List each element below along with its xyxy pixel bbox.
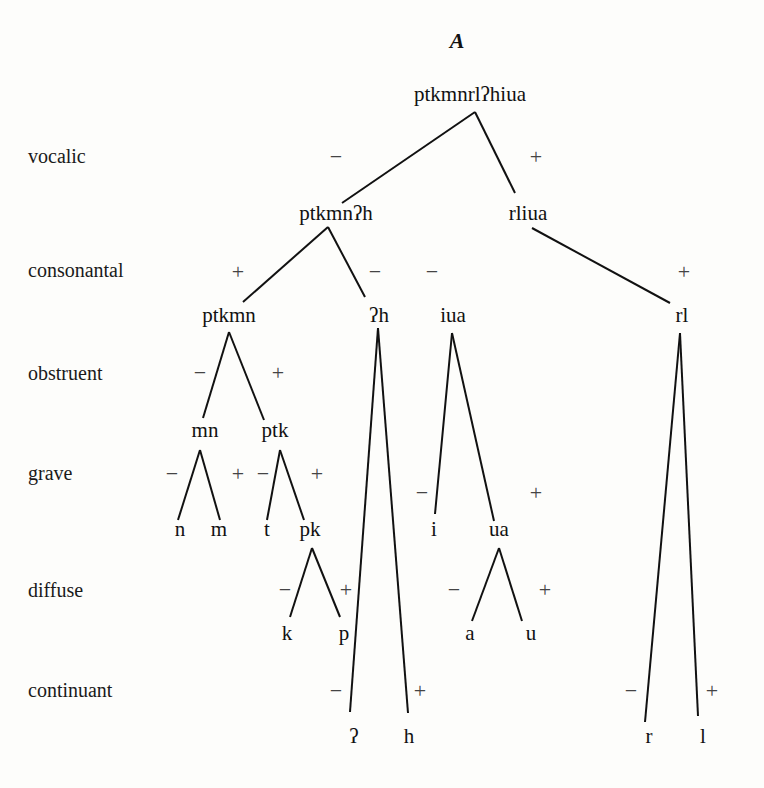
tree-node: r xyxy=(646,724,653,748)
feature-labels: vocalicconsonantalobstruentgravediffusec… xyxy=(28,145,124,701)
tree-edge xyxy=(472,548,499,621)
tree-edge xyxy=(200,450,220,520)
plus-sign: + xyxy=(539,577,551,602)
plus-sign: + xyxy=(340,577,352,602)
tree-edge xyxy=(312,548,340,617)
tree-edge xyxy=(328,227,365,297)
tree-node: ʔh xyxy=(369,303,389,327)
plus-sign: + xyxy=(530,144,542,169)
tree-node: ua xyxy=(489,517,510,541)
feature-label: consonantal xyxy=(28,259,124,281)
minus-sign: − xyxy=(416,480,428,505)
tree-node: mn xyxy=(192,418,219,442)
minus-sign: − xyxy=(194,360,206,385)
plus-sign: + xyxy=(414,678,426,703)
plus-sign: + xyxy=(706,678,718,703)
minus-sign: − xyxy=(330,144,342,169)
tree-node: pk xyxy=(300,517,322,541)
tree-edge xyxy=(280,450,304,520)
tree-edge xyxy=(178,450,200,520)
tree-node: a xyxy=(465,621,475,645)
tree-node: u xyxy=(526,621,537,645)
minus-sign: − xyxy=(279,577,291,602)
tree-node: ptkmnʔh xyxy=(299,201,373,225)
tree-node: rliua xyxy=(509,201,548,225)
tree-node: ptkmnrlʔhiua xyxy=(414,82,527,106)
tree-edge xyxy=(532,228,670,303)
minus-sign: − xyxy=(330,678,342,703)
tree-edge xyxy=(243,227,328,302)
tree-node: rl xyxy=(676,303,689,327)
tree-node: ptkmn xyxy=(202,303,256,327)
tree-edge xyxy=(645,333,680,722)
tree-node: h xyxy=(404,724,415,748)
plus-sign: + xyxy=(678,259,690,284)
tree-edge xyxy=(435,333,452,514)
tree-node: n xyxy=(175,517,186,541)
tree-edge xyxy=(499,548,522,621)
minus-sign: − xyxy=(166,461,178,486)
feature-tree-diagram: A vocalicconsonantalobstruentgravediffus… xyxy=(0,0,764,788)
plus-sign: + xyxy=(232,461,244,486)
tree-node: i xyxy=(431,517,437,541)
tree-node: l xyxy=(700,724,706,748)
tree-node: p xyxy=(339,621,350,645)
tree-node: ʔ xyxy=(349,724,358,748)
tree-edge xyxy=(475,112,515,193)
tree-edge xyxy=(378,328,408,713)
feature-label: obstruent xyxy=(28,362,103,384)
feature-label: vocalic xyxy=(28,145,86,167)
tree-edge xyxy=(229,332,264,420)
tree-edge xyxy=(203,332,229,418)
feature-label: diffuse xyxy=(28,579,83,601)
tree-edge xyxy=(350,328,378,712)
tree-node: m xyxy=(211,517,227,541)
plus-sign: + xyxy=(311,461,323,486)
tree-nodes: ptkmnrlʔhiuaptkmnʔhrliuaptkmnʔhiuarlmnpt… xyxy=(175,82,706,748)
tree-edges xyxy=(178,112,698,722)
diagram-title: A xyxy=(448,28,465,53)
minus-sign: − xyxy=(426,259,438,284)
minus-sign: − xyxy=(448,577,460,602)
tree-edge xyxy=(680,333,698,716)
plus-sign: + xyxy=(232,259,244,284)
feature-values: −++−−+−+−+−+−+−+−+−+−+ xyxy=(166,144,718,703)
tree-node: t xyxy=(264,517,270,541)
tree-node: k xyxy=(282,621,293,645)
tree-edge xyxy=(342,112,475,203)
tree-edge xyxy=(452,333,494,521)
plus-sign: + xyxy=(272,360,284,385)
feature-label: continuant xyxy=(28,679,113,701)
feature-label: grave xyxy=(28,462,73,485)
tree-node: ptk xyxy=(262,418,289,442)
minus-sign: − xyxy=(369,259,381,284)
minus-sign: − xyxy=(625,678,637,703)
plus-sign: + xyxy=(530,480,542,505)
minus-sign: − xyxy=(257,461,269,486)
tree-edge xyxy=(290,548,312,617)
tree-node: iua xyxy=(440,303,466,327)
